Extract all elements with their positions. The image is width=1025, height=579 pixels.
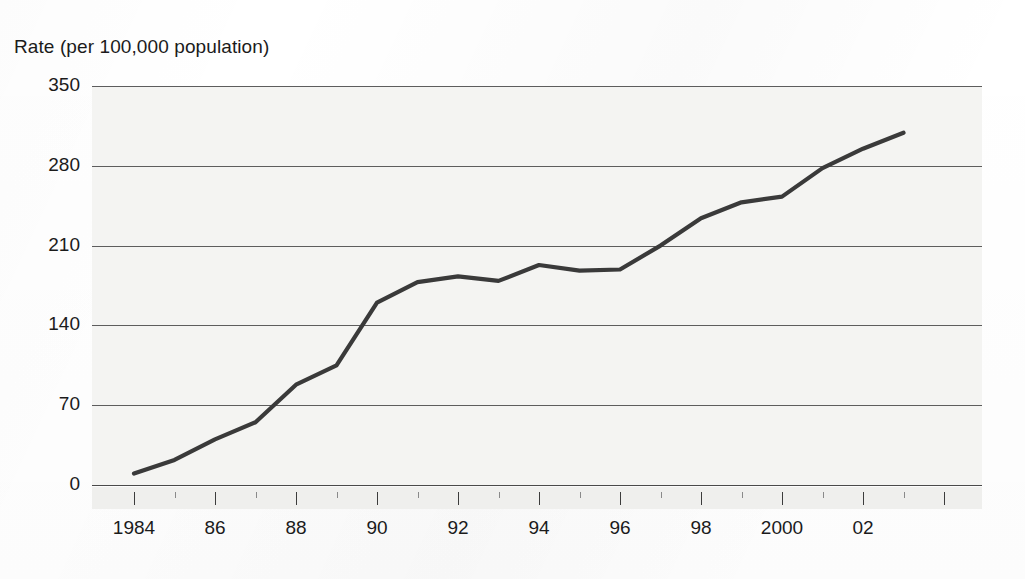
data-series-layer: [0, 0, 1025, 579]
series-line-rate: [134, 133, 904, 474]
line-chart-figure: Rate (per 100,000 population) 3502802101…: [0, 0, 1025, 579]
